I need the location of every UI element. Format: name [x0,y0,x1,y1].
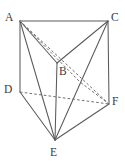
vertex-label-a: A [5,12,13,24]
edge-B-E [55,63,57,140]
prism-figure: ACBDFE [0,0,125,166]
vertex-label-d: D [4,84,12,96]
vertex-label-e: E [50,147,57,159]
vertex-label-f: F [112,96,118,108]
vertex-label-b: B [59,66,67,78]
edge-D-E [20,92,55,140]
vertex-label-c: C [111,12,119,24]
prism-drawing [0,0,125,166]
edge-C-F [108,21,109,104]
edge-A-F-inner [20,21,109,104]
edge-A-B [20,21,57,63]
edge-B-C [57,21,108,63]
edge-A-F [20,21,109,104]
solid-edge-group [20,21,109,140]
edge-D-F [20,92,109,104]
dashed-edge-group [20,21,109,104]
